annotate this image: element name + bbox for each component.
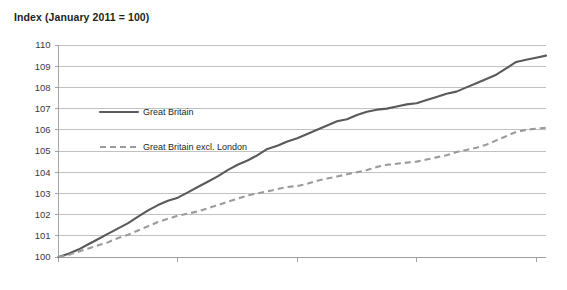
y-axis-tick-label: 110	[35, 39, 50, 50]
y-axis-tick-label: 102	[35, 209, 51, 220]
chart-container: Index (January 2011 = 100) 1001011021031…	[0, 0, 567, 290]
y-axis-tick-label: 109	[35, 61, 51, 72]
x-axis-tick-label: Jan 2011	[39, 265, 77, 268]
y-axis-tick-label: 104	[35, 167, 51, 178]
series-line-great-britain	[59, 56, 547, 257]
y-axis: 100101102103104105106107108109110	[35, 39, 59, 262]
y-axis-tick-label: 101	[35, 230, 51, 241]
y-axis-tick-label: 106	[35, 124, 51, 135]
y-axis-tick-label: 108	[35, 82, 51, 93]
data-series	[59, 56, 547, 257]
plot-area: 100101102103104105106107108109110 Jan 20…	[0, 36, 567, 268]
y-axis-tick-label: 105	[35, 145, 51, 156]
y-axis-tick-label: 100	[35, 251, 51, 262]
x-axis-tick-label: Jan 2015	[517, 265, 556, 268]
legend-label: Great Britain excl. London	[143, 142, 247, 152]
x-axis-tick-label: Jan 2014	[397, 265, 436, 268]
x-axis-tick-label: Jan 2012	[158, 265, 197, 268]
gridlines	[59, 45, 547, 257]
y-axis-tick-label: 103	[35, 188, 51, 199]
y-axis-tick-label: 107	[35, 103, 51, 114]
chart-svg: 100101102103104105106107108109110 Jan 20…	[0, 36, 567, 268]
x-axis: Jan 2011Jan 2012Jan 2013Jan 2014Jan 2015	[39, 257, 555, 268]
legend-label: Great Britain	[143, 107, 194, 117]
chart-title: Index (January 2011 = 100)	[14, 11, 149, 23]
x-axis-tick-label: Jan 2013	[278, 265, 317, 268]
